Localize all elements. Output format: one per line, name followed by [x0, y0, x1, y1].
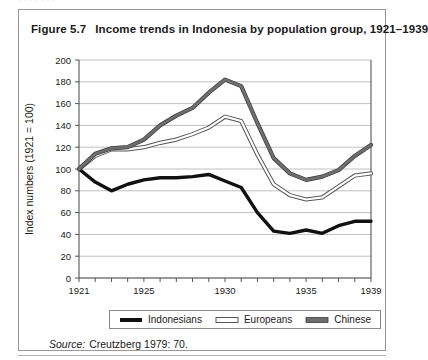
- bottom-divider: [18, 355, 386, 356]
- chart-series-lines: [79, 80, 371, 234]
- y-tick-label: 120: [55, 142, 71, 153]
- x-tick-label: 1930: [214, 285, 235, 296]
- chart-y-axis-title: Index numbers (1921 = 100): [23, 103, 35, 235]
- x-tick-label: 1935: [296, 285, 317, 296]
- x-tick-label: 1921: [68, 285, 89, 296]
- legend-swatch-chinese: [305, 316, 329, 324]
- figure-title-text: Income trends in Indonesia by population…: [95, 23, 428, 35]
- chart-x-tick-labels: 19211925193019351939: [68, 285, 381, 296]
- series-line-chinese-fill: [79, 80, 371, 180]
- y-tick-label: 100: [55, 164, 71, 175]
- legend-item-europeans: Europeans: [215, 314, 292, 325]
- chart-y-tick-labels: 020406080100120140160180200: [55, 55, 71, 284]
- x-tick-label: 1925: [133, 285, 154, 296]
- legend-item-indonesians: Indonesians: [119, 314, 202, 325]
- legend-label-europeans: Europeans: [244, 314, 292, 325]
- page-bleed-text: · · · · · · ·: [18, 0, 388, 4]
- legend-item-chinese: Chinese: [305, 314, 371, 325]
- source-citation: Creutzberg 1979: 70.: [89, 338, 188, 350]
- page-title: Figure 5.7Income trends in Indonesia by …: [31, 23, 428, 35]
- series-line-chinese: [79, 80, 371, 180]
- y-tick-label: 180: [55, 76, 71, 87]
- legend-swatch-europeans: [215, 316, 239, 324]
- source-note: Source:Creutzberg 1979: 70.: [49, 338, 188, 350]
- y-tick-label: 20: [60, 251, 71, 262]
- y-axis-title-text: Index numbers (1921 = 100): [23, 103, 35, 235]
- chart-plot-area: 020406080100120140160180200 192119251930…: [19, 52, 387, 304]
- x-tick-label: 1939: [360, 285, 381, 296]
- y-tick-label: 140: [55, 120, 71, 131]
- y-tick-label: 0: [66, 273, 71, 284]
- chart-gridlines: [79, 60, 371, 278]
- line-chart: 020406080100120140160180200 192119251930…: [19, 52, 387, 304]
- chart-legend: Indonesians Europeans Chinese: [109, 310, 381, 329]
- source-label: Source:: [49, 338, 85, 350]
- series-line-indonesians: [79, 169, 371, 233]
- legend-label-chinese: Chinese: [334, 314, 371, 325]
- legend-label-indonesians: Indonesians: [148, 314, 202, 325]
- y-tick-label: 60: [60, 207, 71, 218]
- y-tick-label: 160: [55, 98, 71, 109]
- y-tick-label: 200: [55, 55, 71, 66]
- figure-number: Figure 5.7: [31, 23, 86, 35]
- y-tick-label: 80: [60, 185, 71, 196]
- y-tick-label: 40: [60, 229, 71, 240]
- figure-container: Figure 5.7Income trends in Indonesia by …: [18, 9, 386, 351]
- chart-x-ticks: [79, 278, 371, 282]
- legend-swatch-indonesians: [119, 316, 143, 324]
